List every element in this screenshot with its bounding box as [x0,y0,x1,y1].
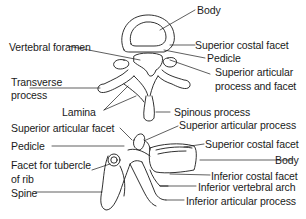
label-superior-articular-process: Superior articular process [179,119,296,131]
label-facet-for-tubercle-line2: of rib [11,173,34,185]
label-pedicle: Pedicle [207,52,241,64]
label-lamina: Lamina [62,106,96,118]
label-body-lateral: Body [275,154,299,166]
label-superior-articular-process-facet-line1: Superior articular [215,66,293,78]
label-superior-articular-process-facet-line2: process and facet [215,80,296,92]
label-superior-costal-facet-lateral: Superior costal facet [205,138,299,150]
label-body: Body [197,4,221,16]
label-vertebral-foramen: Vertebral foramen [9,41,91,53]
leader-lines-superior [30,10,210,112]
label-transverse-process-line2: process [11,89,47,101]
label-pedicle-lateral: Pedicle [11,140,45,152]
label-inferior-vertebral-arch: Inferior vertebral arch [198,181,296,193]
lateral-view-drawing [101,134,197,210]
label-facet-for-tubercle-line1: Facet for tubercle [11,159,91,171]
vertebra-diagram: Body Vertebral foramen Superior costal f… [0,0,306,219]
label-spine: Spine [11,187,37,199]
label-transverse-process-line1: Transverse [11,76,62,88]
label-inferior-articular-process: Inferior articular process [186,195,296,207]
label-spinous-process: Spinous process [174,106,250,118]
label-superior-costal-facet: Superior costal facet [195,39,289,51]
label-superior-articular-facet: Superior articular facet [11,122,114,134]
